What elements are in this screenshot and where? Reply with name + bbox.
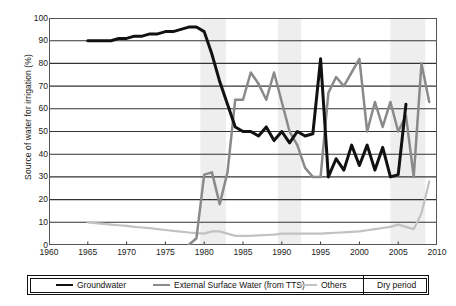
y-tick-label: 80 <box>39 59 48 68</box>
legend-item-external-surface-water[interactable]: External Surface Water (from TTS) <box>153 280 305 290</box>
legend-divider <box>363 276 364 294</box>
x-tick-label: 1960 <box>29 247 69 257</box>
legend-label: Groundwater <box>77 280 126 290</box>
y-tick-label: 20 <box>39 195 48 204</box>
x-tick-label: 2005 <box>378 247 418 257</box>
y-tick-label: 10 <box>39 218 48 227</box>
legend-line-swatch-others <box>300 284 317 286</box>
y-tick-label: 50 <box>39 127 48 136</box>
plot-area <box>49 18 437 245</box>
gridlines <box>49 18 437 222</box>
y-tick-label: 60 <box>39 104 48 113</box>
legend-item-dry-period[interactable]: Dry period <box>377 280 416 290</box>
legend-item-others[interactable]: Others <box>300 280 347 290</box>
x-tick-label: 2010 <box>417 247 456 257</box>
legend-label: External Surface Water (from TTS) <box>174 280 305 290</box>
chart-figure: Source of water for irrigation (%) 100 9… <box>0 0 456 306</box>
y-tick-label: 90 <box>39 36 48 45</box>
y-tick-label: 30 <box>39 172 48 181</box>
x-tick-label: 1995 <box>301 247 341 257</box>
data-series-lines <box>88 27 429 245</box>
x-tick-label: 2000 <box>339 247 379 257</box>
legend-label: Others <box>321 280 347 290</box>
x-tick-label: 1975 <box>145 247 185 257</box>
y-tick-label: 40 <box>39 150 48 159</box>
legend-line-swatch-external-surface-water <box>153 284 170 286</box>
legend-label: Dry period <box>377 280 416 290</box>
x-tick-label: 1980 <box>184 247 224 257</box>
y-tick-label: 70 <box>39 82 48 91</box>
legend-item-groundwater[interactable]: Groundwater <box>56 280 126 290</box>
series-line-others <box>88 181 429 235</box>
x-axis-tick-labels: 1960 1965 1970 1975 1980 1985 1990 1995 … <box>0 247 456 261</box>
y-tick-label: 100 <box>34 14 48 23</box>
x-tick-label: 1965 <box>68 247 108 257</box>
chart-legend: Groundwater External Surface Water (from… <box>27 275 429 295</box>
x-tick-label: 1970 <box>107 247 147 257</box>
x-tick-label: 1985 <box>223 247 263 257</box>
chart-svg <box>49 18 437 245</box>
x-tick-label: 1990 <box>262 247 302 257</box>
legend-line-swatch-groundwater <box>56 284 73 286</box>
